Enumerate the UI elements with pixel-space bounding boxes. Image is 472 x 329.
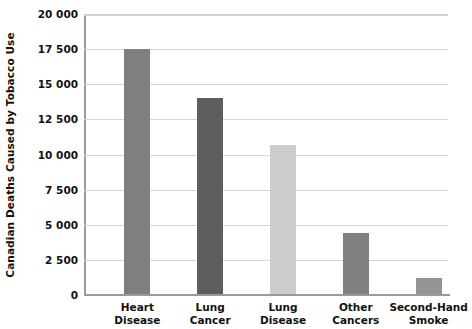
bar <box>197 98 223 295</box>
bar <box>343 233 369 295</box>
x-axis-tick-label: Second-HandSmoke <box>381 301 472 326</box>
x-axis-tick-label-line: Other <box>339 301 373 313</box>
y-axis-tick-label: 17 500 <box>8 43 78 55</box>
y-axis-tick-label: 0 <box>8 289 78 301</box>
y-axis-tick-label: 12 500 <box>8 113 78 125</box>
y-axis-tick-label: 15 000 <box>8 78 78 90</box>
y-axis-tick-label: 2 500 <box>8 254 78 266</box>
y-axis-tick-label: 20 000 <box>8 8 78 20</box>
bar <box>124 49 150 295</box>
bars-layer <box>84 14 448 295</box>
bar <box>416 278 442 295</box>
y-axis-tick-label: 10 000 <box>8 149 78 161</box>
y-axis-tick-label: 5 000 <box>8 219 78 231</box>
x-axis-line <box>84 294 450 296</box>
x-axis-tick-label-line: Lung <box>196 301 225 313</box>
x-axis-tick-label-line: Lung <box>268 301 297 313</box>
x-axis-tick-label-line: Second-Hand <box>389 301 467 313</box>
y-axis-tick-label: 7 500 <box>8 184 78 196</box>
x-axis-tick-label-line: Heart <box>121 301 154 313</box>
bar <box>270 145 296 295</box>
x-axis-tick-label-line: Smoke <box>381 314 472 327</box>
